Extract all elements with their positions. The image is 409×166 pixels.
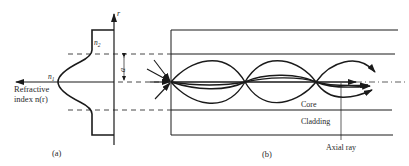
core-label: Core bbox=[301, 100, 317, 109]
n1-label: n1 bbox=[48, 72, 55, 82]
index-axis-label-line2: index n(r) bbox=[14, 94, 48, 104]
r-axis-label: r bbox=[117, 9, 121, 18]
cladding-label: Cladding bbox=[301, 117, 330, 126]
index-axis-label-line1: Refractive bbox=[14, 84, 50, 94]
radius-label: a bbox=[118, 68, 127, 72]
panel-a-caption: (a) bbox=[52, 148, 62, 158]
axial-ray-label: Axial ray bbox=[326, 143, 356, 152]
panel-a-index-profile: r Refractive index n(r) n1 n2 a (a) bbox=[14, 9, 127, 158]
panel-b-caption: (b) bbox=[262, 149, 272, 159]
panel-b-fiber: Core Cladding Axial ray (b) bbox=[147, 30, 408, 159]
graded-index-fiber-diagram: r Refractive index n(r) n1 n2 a (a) bbox=[0, 0, 409, 166]
n2-label: n2 bbox=[94, 38, 101, 48]
incoming-rays bbox=[147, 60, 170, 99]
